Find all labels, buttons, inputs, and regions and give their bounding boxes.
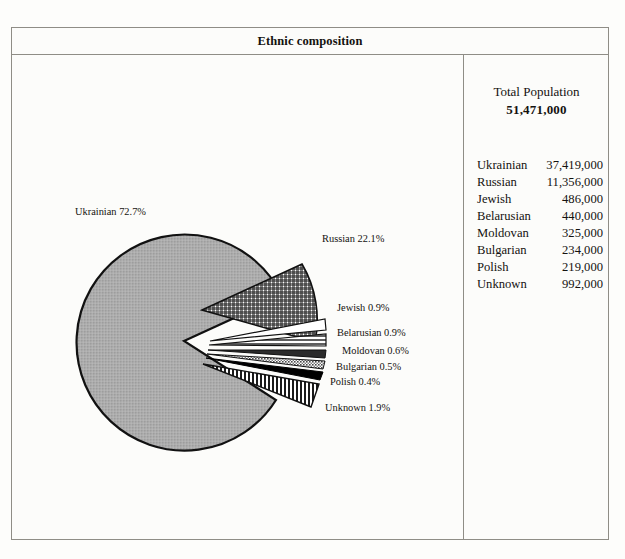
chart-frame: Ethnic composition	[11, 27, 609, 540]
total-population-label: Total Population	[464, 84, 609, 100]
page-title: Ethnic composition	[258, 34, 363, 49]
table-cell-value: 219,000	[538, 260, 603, 277]
pie-label-layer: Ukrainian 72.7% Russian 22.1% Jewish 0.9…	[12, 55, 463, 540]
table-row: Unknown992,000	[477, 277, 603, 294]
table-cell-label: Moldovan	[477, 226, 538, 243]
pie-label-belarusian: Belarusian 0.9%	[337, 327, 406, 338]
table-row: Bulgarian234,000	[477, 243, 603, 260]
table-cell-label: Bulgarian	[477, 243, 538, 260]
table-row: Jewish486,000	[477, 192, 603, 209]
ethnic-population-table: Ukrainian37,419,000Russian11,356,000Jewi…	[477, 158, 603, 294]
table-row: Polish219,000	[477, 260, 603, 277]
table-cell-value: 325,000	[538, 226, 603, 243]
table-cell-value: 440,000	[538, 209, 603, 226]
pie-label-polish: Polish 0.4%	[330, 376, 381, 387]
chart-pane: Ukrainian 72.7% Russian 22.1% Jewish 0.9…	[12, 55, 463, 540]
total-population-value: 51,471,000	[464, 102, 609, 118]
pie-label-jewish: Jewish 0.9%	[337, 302, 390, 313]
table-row: Russian11,356,000	[477, 175, 603, 192]
table-cell-value: 234,000	[538, 243, 603, 260]
table-cell-label: Unknown	[477, 277, 538, 294]
table-cell-value: 486,000	[538, 192, 603, 209]
table-cell-label: Russian	[477, 175, 538, 192]
table-cell-label: Polish	[477, 260, 538, 277]
table-cell-label: Jewish	[477, 192, 538, 209]
table-row: Ukrainian37,419,000	[477, 158, 603, 175]
table-cell-value: 992,000	[538, 277, 603, 294]
pie-label-russian: Russian 22.1%	[322, 233, 385, 244]
table-cell-label: Belarusian	[477, 209, 538, 226]
table-cell-value: 37,419,000	[538, 158, 603, 175]
scan-artifact-top-text	[185, 0, 455, 13]
pie-label-moldovan: Moldovan 0.6%	[342, 345, 409, 356]
title-bar: Ethnic composition	[12, 28, 608, 55]
table-cell-value: 11,356,000	[538, 175, 603, 192]
pie-label-unknown: Unknown 1.9%	[325, 402, 391, 413]
table-row: Moldovan325,000	[477, 226, 603, 243]
pie-label-bulgarian: Bulgarian 0.5%	[336, 361, 402, 372]
table-row: Belarusian440,000	[477, 209, 603, 226]
table-cell-label: Ukrainian	[477, 158, 538, 175]
data-pane: Total Population 51,471,000 Ukrainian37,…	[464, 55, 609, 540]
pie-label-ukrainian: Ukrainian 72.7%	[75, 206, 146, 217]
